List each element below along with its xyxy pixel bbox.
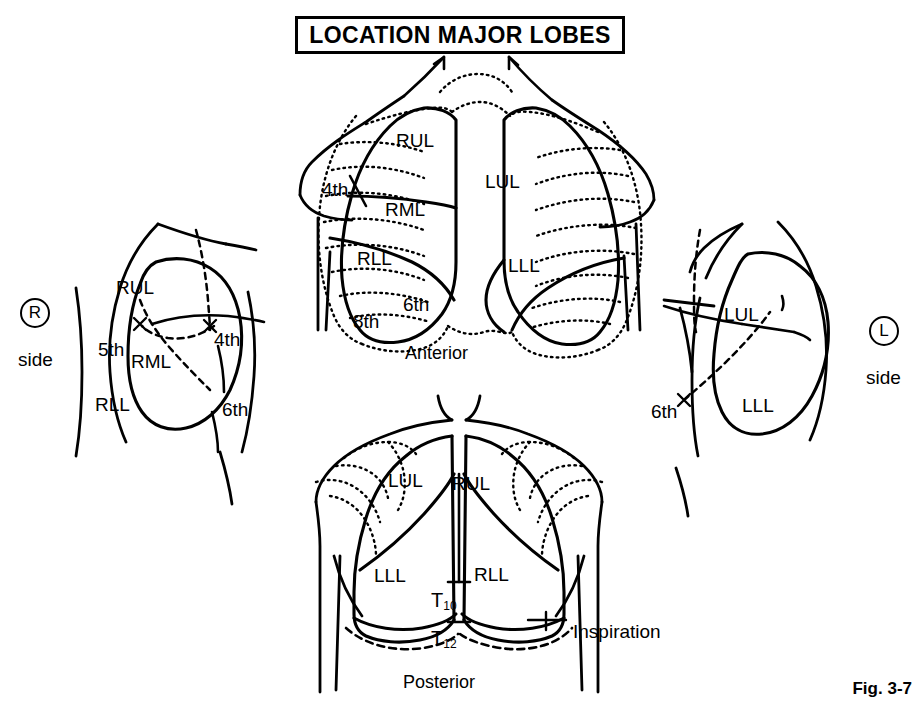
lobe-label-lll-posterior: LLL xyxy=(374,566,406,585)
rib-label-6th-left-side: 6th xyxy=(651,402,677,421)
vertebra-label-t10: T10 xyxy=(431,590,457,612)
right-side-marker-circle: R xyxy=(20,298,50,328)
lobe-label-rul-anterior: RUL xyxy=(396,131,434,150)
rib-label-4th-anterior: 4th xyxy=(322,180,348,199)
title-text: LOCATION MAJOR LOBES xyxy=(309,22,610,49)
t10-number: 10 xyxy=(443,599,456,613)
rib-label-8th-anterior: 8th xyxy=(353,312,379,331)
left-side-marker-caption: side xyxy=(866,368,901,387)
lobe-label-lul-posterior: LUL xyxy=(388,471,423,490)
left-side-marker-circle: L xyxy=(869,316,899,346)
rib-label-4th-right-side: 4th xyxy=(214,330,240,349)
posterior-lung-right xyxy=(464,436,564,642)
lobe-label-rll-posterior: RLL xyxy=(474,565,509,584)
lobe-label-rml-anterior: RML xyxy=(385,200,425,219)
rib-label-5th-right-side: 5th xyxy=(98,340,124,359)
right-side-x-markers xyxy=(134,318,216,332)
title-arrow-left xyxy=(404,57,444,96)
t10-letter: T xyxy=(431,589,443,611)
lobe-label-rul-posterior: RUL xyxy=(452,474,490,493)
lobe-label-rll-right-side: RLL xyxy=(95,395,130,414)
anterior-view-caption: Anterior xyxy=(405,343,468,364)
lobe-label-rul-right-side: RUL xyxy=(116,278,154,297)
left-side-marker-letter: L xyxy=(879,321,888,341)
left-side-x-marker xyxy=(678,394,690,406)
rib-label-6th-right-side: 6th xyxy=(222,400,248,419)
figure-canvas: LOCATION MAJOR LOBES R side RUL RML RLL … xyxy=(0,0,922,711)
left-side-tick-mark xyxy=(782,296,784,310)
right-side-marker-caption: side xyxy=(18,350,53,369)
lobe-label-lll-anterior: LLL xyxy=(508,256,540,275)
t12-letter: T xyxy=(431,627,443,649)
t12-number: 12 xyxy=(443,637,456,651)
rib-label-6th-anterior: 6th xyxy=(403,295,429,314)
lobe-label-rml-right-side: RML xyxy=(131,352,171,371)
title-box: LOCATION MAJOR LOBES xyxy=(295,16,625,54)
lobe-label-rll-anterior: RLL xyxy=(357,249,392,268)
title-arrow-right xyxy=(509,57,552,100)
inspiration-annotation-label: Inspiration xyxy=(573,622,661,641)
posterior-diaphragm-inspiration-dashed xyxy=(346,628,572,649)
posterior-view-caption: Posterior xyxy=(403,672,475,693)
lobe-label-lll-left-side: LLL xyxy=(742,396,774,415)
figure-number: Fig. 3-7 xyxy=(852,679,912,699)
lobe-label-lul-anterior: LUL xyxy=(485,172,520,191)
vertebra-label-t12: T12 xyxy=(431,628,457,650)
lobe-label-lul-left-side: LUL xyxy=(724,305,759,324)
right-side-marker-letter: R xyxy=(29,303,41,323)
